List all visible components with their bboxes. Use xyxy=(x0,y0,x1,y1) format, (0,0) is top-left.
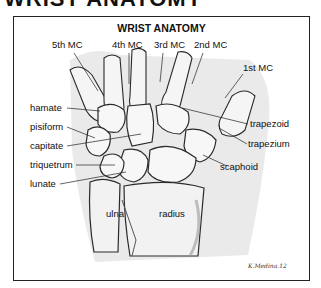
label-ulna: ulna xyxy=(106,209,124,219)
label-capitate: capitate xyxy=(30,141,63,151)
label-scaphoid: scaphoid xyxy=(220,162,258,172)
label-1st-mc: 1st MC xyxy=(243,63,273,73)
label-triquetrum: triquetrum xyxy=(30,160,73,170)
label-lunate: lunate xyxy=(30,179,56,189)
label-radius: radius xyxy=(159,209,185,219)
figure-title: WRIST ANATOMY xyxy=(13,22,310,34)
label-pisiform: pisiform xyxy=(30,122,63,132)
label-5th-mc: 5th MC xyxy=(52,40,83,50)
label-trapezium: trapezium xyxy=(248,139,290,149)
label-2nd-mc: 2nd MC xyxy=(194,40,227,50)
label-trapezoid: trapezoid xyxy=(250,119,289,129)
artist-signature: K.Medina.12 xyxy=(248,262,287,269)
label-3rd-mc: 3rd MC xyxy=(154,40,185,50)
label-hamate: hamate xyxy=(30,103,62,113)
label-4th-mc: 4th MC xyxy=(112,40,143,50)
